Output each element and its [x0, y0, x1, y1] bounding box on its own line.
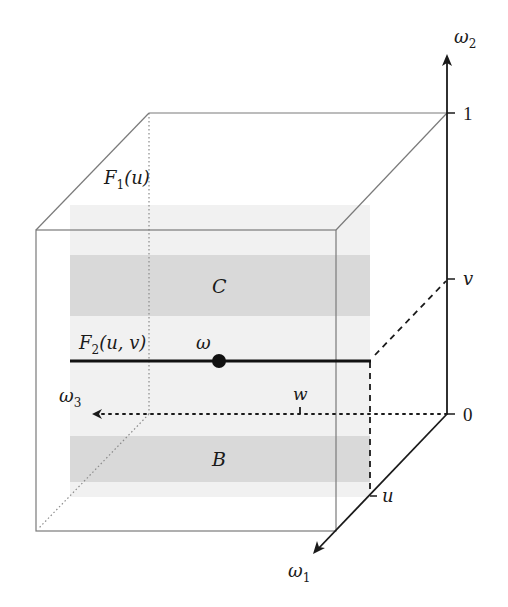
omega1-axis-label: ω1	[288, 560, 310, 585]
set-c-label: C	[212, 275, 227, 297]
tick-label-u: u	[382, 485, 394, 506]
omega-point	[212, 354, 226, 368]
omega-point-label: ω	[196, 332, 211, 353]
set-b-label: B	[211, 448, 226, 470]
tick-label-0: 0	[463, 404, 473, 425]
tick-label-v: v	[463, 268, 473, 289]
f1-label: F1(u)	[103, 167, 150, 192]
omega2-axis-label: ω2	[454, 26, 476, 51]
dashed-v-projection	[375, 281, 446, 355]
cube-diagram: ω2 1 v 0 u w ω1 ω3 F1(u) F2(u, v) ω C B	[0, 0, 508, 607]
tick-label-w: w	[293, 384, 308, 404]
tick-label-1: 1	[463, 103, 473, 124]
